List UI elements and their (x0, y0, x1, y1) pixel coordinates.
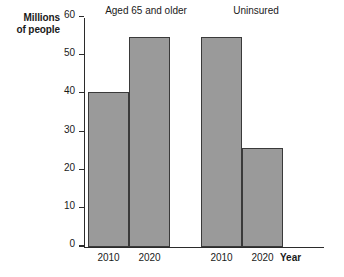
bar-chart: Millions of people 0 10 20 30 40 50 60 A… (0, 0, 344, 277)
bar-uninsured-2010 (201, 37, 242, 247)
x-label-uninsured-2010: 2010 (201, 252, 242, 264)
bar-uninsured-2020 (242, 148, 283, 247)
y-tick-label-10: 10 (64, 200, 75, 212)
x-axis-line (84, 247, 324, 248)
group-label-aged-65-and-older: Aged 65 and older (88, 5, 204, 17)
y-tick-60: 60 (79, 16, 84, 17)
y-tick-label-60: 60 (64, 9, 75, 21)
y-axis-title-line-2: of people (2, 24, 60, 36)
y-tick-label-40: 40 (64, 85, 75, 97)
y-axis-title-line-1: Millions (2, 12, 60, 24)
bar-aged65-2020 (129, 37, 170, 247)
y-tick-50: 50 (79, 54, 84, 55)
y-tick-0: 0 (79, 245, 84, 246)
y-tick-40: 40 (79, 92, 84, 93)
y-tick-label-20: 20 (64, 162, 75, 174)
y-tick-30: 30 (79, 131, 84, 132)
x-label-aged65-2010: 2010 (88, 252, 129, 264)
x-axis-title: Year (280, 252, 301, 264)
group-label-uninsured: Uninsured (200, 5, 312, 17)
y-tick-label-0: 0 (69, 238, 75, 250)
y-axis-title: Millions of people (2, 12, 60, 35)
y-tick-label-30: 30 (64, 124, 75, 136)
y-axis-line (84, 18, 85, 248)
y-tick-10: 10 (79, 207, 84, 208)
y-tick-20: 20 (79, 169, 84, 170)
x-label-aged65-2020: 2020 (129, 252, 170, 264)
x-label-uninsured-2020: 2020 (242, 252, 283, 264)
bar-aged65-2010 (88, 92, 129, 246)
y-tick-label-50: 50 (64, 47, 75, 59)
plot-area: 0 10 20 30 40 50 60 Aged 65 and older Un… (84, 18, 324, 248)
